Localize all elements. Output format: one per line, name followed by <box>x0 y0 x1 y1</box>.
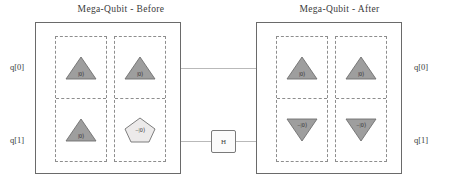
glyph-triangle-down-icon: −|0⟩ <box>285 116 319 144</box>
panel-before: |0⟩ |0⟩ |0⟩ <box>35 22 181 174</box>
before-register-a-cell-top: |0⟩ <box>56 37 106 99</box>
qubit-label-left-q1: q[1] <box>10 135 24 145</box>
glyph-triangle-up-icon: |0⟩ <box>285 54 319 82</box>
after-register-a-cell-top: |0⟩ <box>277 37 327 99</box>
glyph-pentagon-icon: −|0⟩ <box>123 116 157 144</box>
after-register-a: |0⟩ −|0⟩ <box>276 36 328 162</box>
glyph-label: |0⟩ <box>299 71 305 77</box>
qubit-label-right-q1: q[1] <box>414 135 428 145</box>
glyph-label: −|0⟩ <box>356 122 366 128</box>
qubit-label-right-q0: q[0] <box>414 62 428 72</box>
after-register-b-cell-bottom: −|0⟩ <box>336 99 386 161</box>
glyph-triangle-up-icon: |0⟩ <box>64 116 98 144</box>
hadamard-gate-label: H <box>221 138 226 146</box>
wire-q0 <box>181 68 256 69</box>
glyph-label: |0⟩ <box>78 71 84 77</box>
triangle-up-shape <box>64 116 98 144</box>
before-register-a-cell-bottom: |0⟩ <box>56 99 106 161</box>
glyph-label: |0⟩ <box>78 133 84 139</box>
hadamard-gate[interactable]: H <box>211 130 236 153</box>
triangle-up-shape <box>344 54 378 82</box>
before-register-b: |0⟩ −|0⟩ <box>114 36 166 162</box>
before-register-b-cell-top: |0⟩ <box>115 37 165 99</box>
panel-title-after: Mega-Qubit - After <box>274 4 405 14</box>
glyph-triangle-up-icon: |0⟩ <box>64 54 98 82</box>
qubit-label-left-q0: q[0] <box>10 62 24 72</box>
glyph-label: |0⟩ <box>358 71 364 77</box>
panel-title-before: Mega-Qubit - Before <box>61 4 181 14</box>
glyph-label: −|0⟩ <box>297 122 307 128</box>
panel-after: |0⟩ −|0⟩ |0⟩ <box>256 22 402 174</box>
glyph-triangle-up-icon: |0⟩ <box>123 54 157 82</box>
triangle-up-shape <box>64 54 98 82</box>
wire-q1-right-segment <box>236 141 256 142</box>
glyph-triangle-down-icon: −|0⟩ <box>344 116 378 144</box>
glyph-label: |0⟩ <box>137 71 143 77</box>
after-register-b: |0⟩ −|0⟩ <box>335 36 387 162</box>
wire-q1-left-segment <box>181 141 212 142</box>
glyph-label: −|0⟩ <box>135 127 145 133</box>
triangle-down-shape <box>285 116 319 144</box>
before-register-b-cell-bottom: −|0⟩ <box>115 99 165 161</box>
triangle-up-shape <box>123 54 157 82</box>
before-register-a: |0⟩ |0⟩ <box>55 36 107 162</box>
glyph-triangle-up-icon: |0⟩ <box>344 54 378 82</box>
diagram-canvas: Mega-Qubit - Before Mega-Qubit - After |… <box>0 0 452 186</box>
triangle-up-shape <box>285 54 319 82</box>
after-register-a-cell-bottom: −|0⟩ <box>277 99 327 161</box>
after-register-b-cell-top: |0⟩ <box>336 37 386 99</box>
triangle-down-shape <box>344 116 378 144</box>
